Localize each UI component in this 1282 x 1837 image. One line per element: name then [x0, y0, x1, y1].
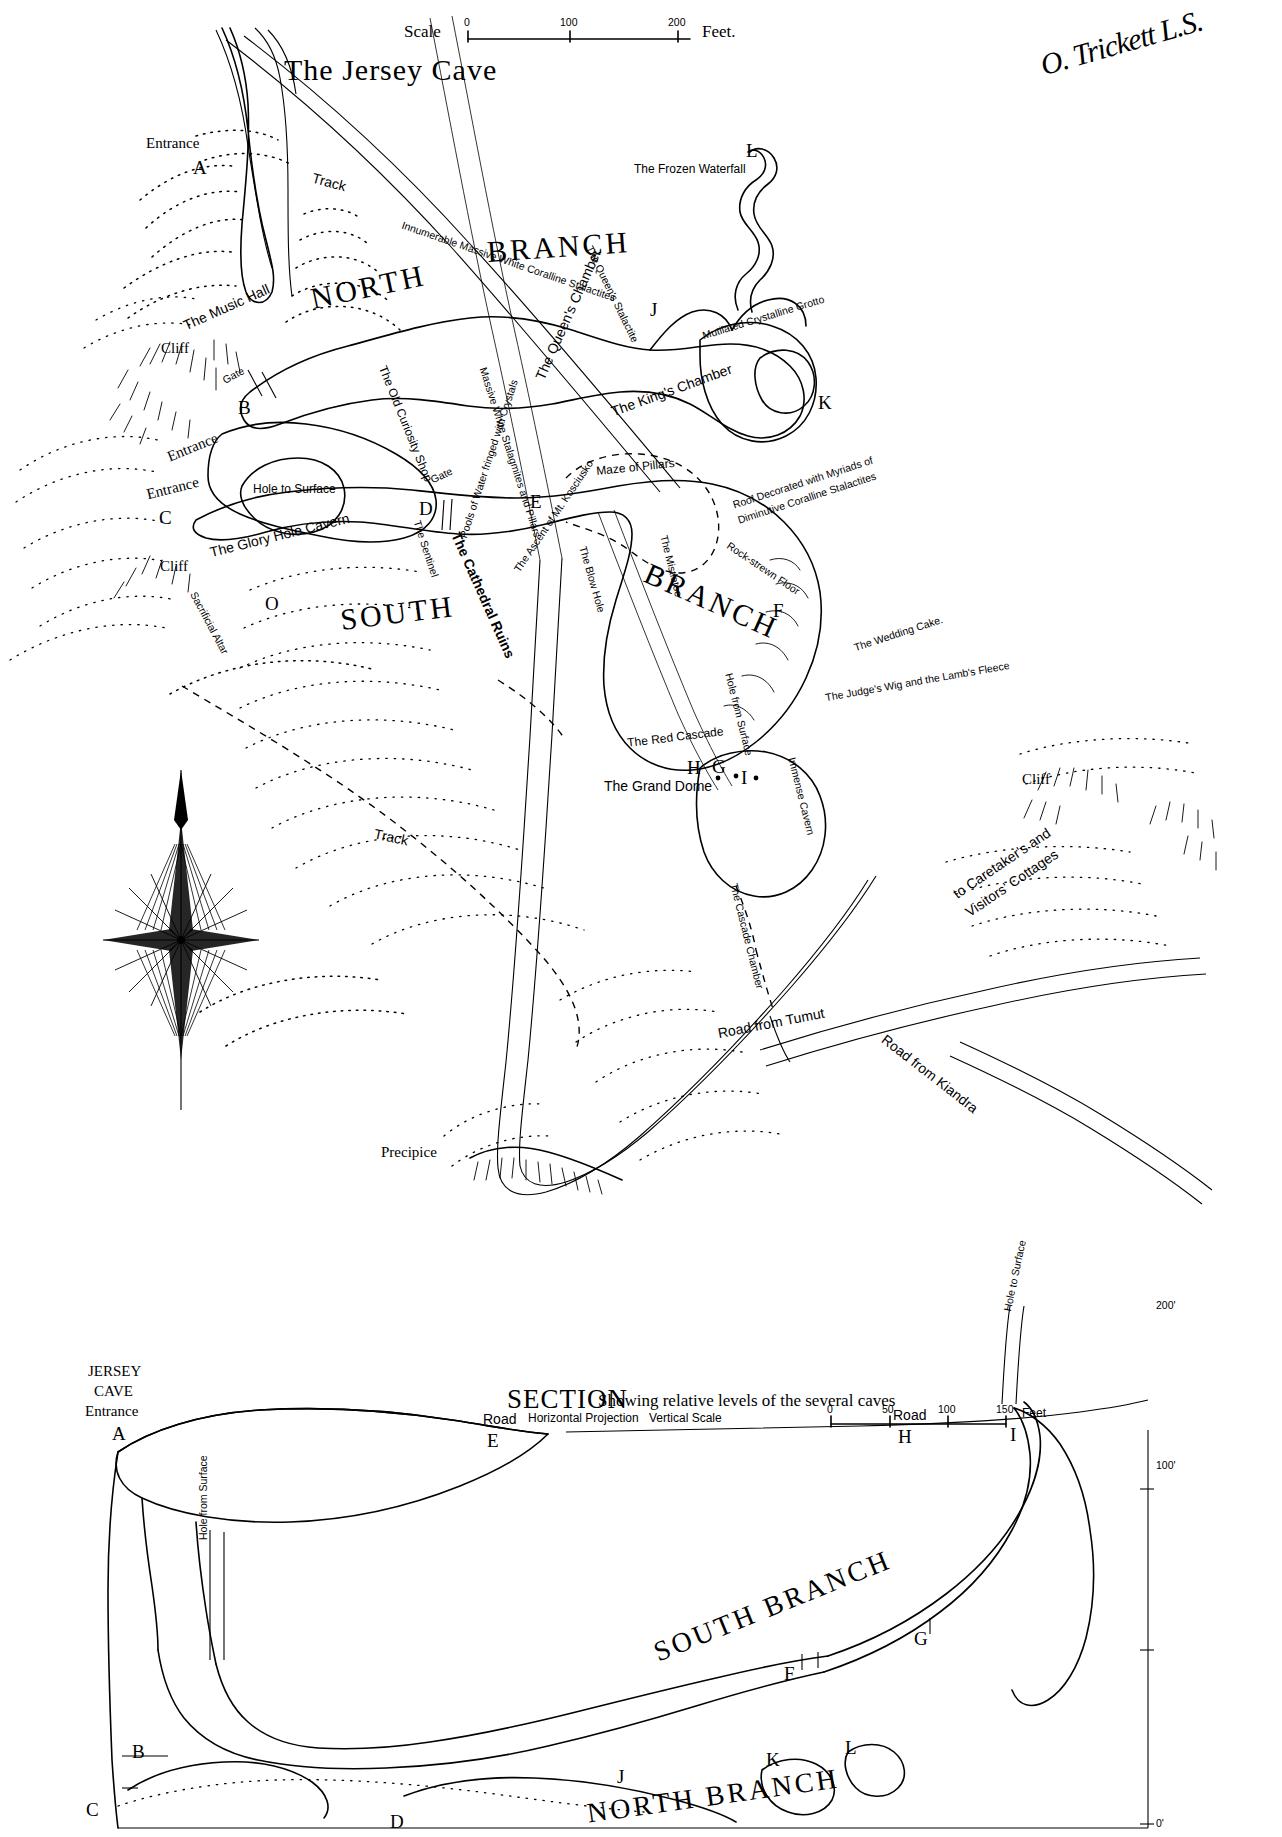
section-elevation-200: 200': [1156, 1300, 1176, 1311]
section-projection-note: Horizontal Projection: [528, 1412, 639, 1424]
entrance-a-label: Entrance: [146, 136, 199, 151]
point-d: D: [419, 499, 433, 518]
cliff-label-north: Cliff: [161, 341, 189, 356]
section-road-right: Road: [893, 1408, 926, 1422]
scale-tick-0: 0: [464, 17, 470, 28]
cliff-label-south: Cliff: [160, 559, 188, 574]
section-vscale-100: 100: [938, 1404, 956, 1415]
section-vscale-50: 50: [882, 1404, 894, 1415]
section-vertical-scale-label: Vertical Scale: [649, 1412, 722, 1424]
scale-tick-200: 200: [668, 17, 686, 28]
section-diagram: [108, 1306, 1154, 1828]
feature-frozen-waterfall: The Frozen Waterfall: [634, 163, 746, 175]
section-elevation-100: 100': [1156, 1460, 1176, 1471]
feature-hole-to-surface: Hole to Surface: [253, 483, 336, 495]
section-left-title-1: JERSEY: [88, 1364, 141, 1379]
section-point-a: A: [112, 1424, 126, 1443]
surface-contours-south: [170, 567, 780, 1166]
section-point-g: G: [914, 1629, 928, 1648]
point-a: A: [193, 158, 207, 177]
section-point-j: J: [617, 1767, 624, 1786]
point-b: B: [238, 398, 251, 417]
section-road-left: Road: [483, 1412, 516, 1426]
point-c: C: [159, 508, 172, 527]
section-point-d: D: [390, 1812, 404, 1831]
section-hole-from-surface: Hole from Surface: [198, 1455, 209, 1540]
scale-label: Scale: [404, 23, 441, 40]
section-point-i: I: [1010, 1425, 1016, 1444]
point-h: H: [687, 758, 701, 777]
track-dashed-south: [182, 680, 579, 1050]
feature-grand-dome: The Grand Dome: [604, 779, 712, 793]
section-vscale-unit: Feet: [1022, 1407, 1046, 1419]
cliff-label-east: Cliff: [1022, 772, 1050, 787]
point-g: G: [712, 757, 726, 776]
section-point-h: H: [898, 1427, 912, 1446]
section-point-e: E: [487, 1431, 499, 1450]
feature-precipice: Precipice: [381, 1145, 437, 1160]
compass-rose-graphic: [103, 770, 259, 1110]
survey-traverse-lines: [497, 510, 876, 1195]
point-o: O: [265, 594, 279, 613]
scale-bar-graphic: [468, 31, 690, 42]
kings-chamber: [700, 322, 816, 441]
section-left-title-3: Entrance: [85, 1404, 138, 1419]
point-l: L: [746, 141, 758, 160]
chamber-K: [755, 350, 814, 413]
scale-tick-100: 100: [560, 17, 578, 28]
map-sheet: .st{fill:none;stroke:#000;stroke-width:1…: [0, 0, 1282, 1837]
section-vscale-0: 0: [827, 1404, 833, 1415]
section-point-b: B: [132, 1742, 145, 1761]
section-point-k: K: [766, 1750, 780, 1769]
section-left-title-2: CAVE: [94, 1384, 133, 1399]
point-i: I: [741, 768, 747, 787]
point-k: K: [818, 393, 832, 412]
page-title: The Jersey Cave: [284, 55, 497, 85]
section-point-l: L: [845, 1738, 857, 1757]
scale-unit: Feet.: [702, 23, 736, 40]
section-subheading: Showing relative levels of the several c…: [598, 1392, 895, 1409]
point-j: J: [650, 300, 657, 319]
section-point-f: F: [784, 1664, 795, 1683]
map-linework: .st{fill:none;stroke:#000;stroke-width:1…: [0, 0, 1282, 1837]
section-point-c: C: [86, 1800, 99, 1819]
roads-southeast: [760, 958, 1212, 1204]
section-vscale-150: 150: [996, 1404, 1014, 1415]
precipice: [470, 1147, 622, 1194]
section-elevation-0: 0': [1156, 1818, 1164, 1829]
point-f: F: [773, 601, 784, 620]
